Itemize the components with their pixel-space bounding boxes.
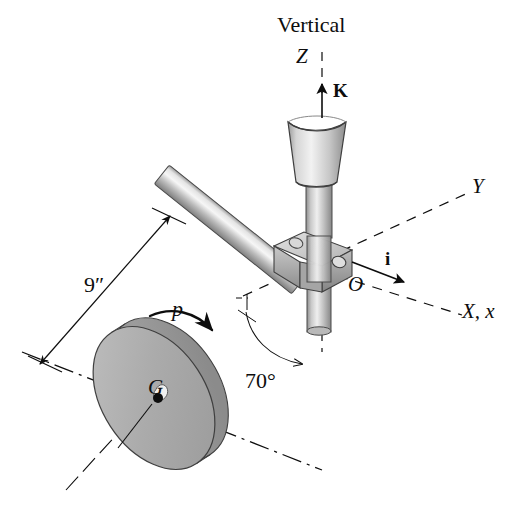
label-angle-70: 70°: [245, 368, 276, 394]
angle-70-mark: [236, 294, 302, 364]
figure-drawing: [0, 0, 531, 506]
label-unit-vector-i: i: [385, 248, 390, 270]
label-axis-z: Z: [296, 44, 308, 69]
drive-cup: [288, 116, 346, 187]
label-point-g: G: [148, 375, 163, 400]
label-spin-p: p: [172, 296, 183, 322]
figure-canvas: Vertical Z K Y i X, x O G 9″ p 70°: [0, 0, 531, 506]
label-vertical: Vertical: [277, 12, 345, 38]
label-axis-y: Y: [472, 174, 484, 199]
label-dimension-9in: 9″: [84, 272, 104, 298]
label-unit-vector-k: K: [333, 80, 348, 102]
label-axis-x: X, x: [462, 299, 495, 324]
label-point-o: O: [348, 272, 363, 297]
